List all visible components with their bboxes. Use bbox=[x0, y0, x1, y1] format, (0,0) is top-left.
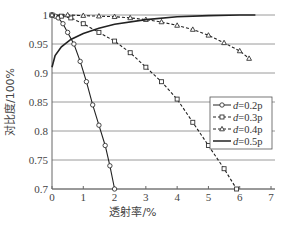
x-tick-label: 0 bbox=[49, 191, 55, 203]
chart: 10.950.90.850.80.750.7 01234567 透射率/% 对比… bbox=[0, 0, 286, 227]
x-tick-label: 2 bbox=[112, 191, 118, 203]
y-tick-label: 0.95 bbox=[29, 38, 49, 50]
legend: d=0.2pd=0.3pd=0.4pd=0.5p bbox=[210, 97, 272, 149]
legend-label: d=0.3p bbox=[233, 112, 263, 123]
y-tick-label: 0.7 bbox=[34, 183, 48, 195]
x-tick-label: 5 bbox=[206, 191, 212, 203]
x-tick-labels: 01234567 bbox=[49, 191, 274, 203]
x-tick-label: 4 bbox=[174, 191, 180, 203]
y-tick-label: 1 bbox=[43, 9, 49, 21]
x-tick-label: 6 bbox=[237, 191, 243, 203]
x-tick-label: 7 bbox=[268, 191, 274, 203]
y-tick-label: 0.85 bbox=[29, 96, 49, 108]
x-tick-label: 1 bbox=[81, 191, 87, 203]
y-axis-label: 对比度/100% bbox=[3, 68, 17, 136]
y-tick-label: 0.9 bbox=[34, 67, 48, 79]
x-axis-label: 透射率/% bbox=[109, 205, 156, 219]
y-tick-label: 0.75 bbox=[29, 154, 49, 166]
y-tick-label: 0.8 bbox=[34, 125, 48, 137]
x-tick-label: 3 bbox=[143, 191, 149, 203]
legend-label: d=0.2p bbox=[233, 100, 263, 111]
legend-label: d=0.5p bbox=[233, 136, 263, 147]
legend-label: d=0.4p bbox=[233, 124, 263, 135]
y-tick-labels: 10.950.90.850.80.750.7 bbox=[29, 9, 49, 195]
